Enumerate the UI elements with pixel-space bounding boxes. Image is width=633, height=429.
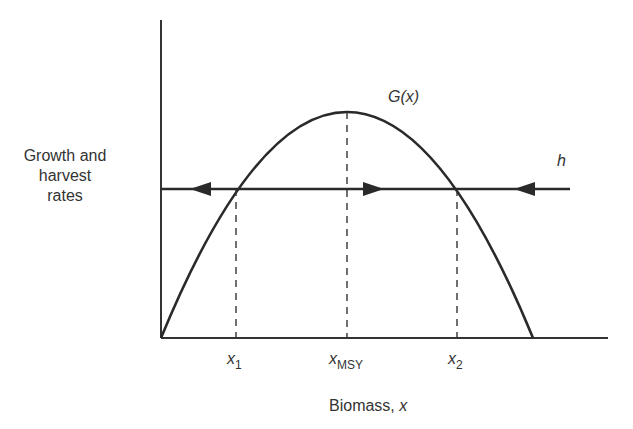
arrow-left-icon (514, 182, 535, 196)
y-label-line: rates (0, 186, 130, 206)
tick-x1: x1 (227, 350, 242, 368)
y-axis-label: Growth and harvest rates (0, 146, 130, 206)
harvest-label: h (557, 152, 566, 170)
curve-label: G(x) (388, 88, 419, 106)
x-axis-label: Biomass, x (329, 397, 407, 415)
growth-curve (161, 112, 533, 338)
diagram-canvas (0, 0, 633, 429)
x-label-var: x (399, 397, 407, 414)
tick-sub: MSY (337, 358, 363, 372)
tick-sub: 2 (456, 358, 463, 372)
y-label-line: Growth and (0, 146, 130, 166)
arrow-right-icon (363, 182, 384, 196)
y-label-line: harvest (0, 166, 130, 186)
tick-sub: 1 (235, 358, 242, 372)
tick-var: x (227, 350, 235, 367)
tick-var: x (329, 350, 337, 367)
x-label-text: Biomass, (329, 397, 399, 414)
arrow-left-icon (190, 182, 211, 196)
tick-xmsy: xMSY (329, 350, 363, 368)
tick-var: x (448, 350, 456, 367)
tick-x2: x2 (448, 350, 463, 368)
